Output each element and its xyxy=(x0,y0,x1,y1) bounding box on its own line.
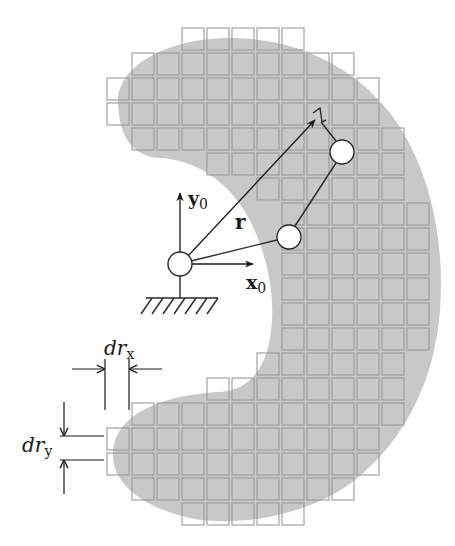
r-label: r xyxy=(235,210,246,234)
y0-label: y0 xyxy=(187,187,208,212)
workspace-region xyxy=(113,38,441,521)
dr-y-dimension xyxy=(60,402,104,494)
ground-icon xyxy=(141,276,218,314)
joint-2 xyxy=(277,225,301,249)
dr-x-label: drx xyxy=(104,336,134,362)
joint-3 xyxy=(330,140,354,164)
base-joint xyxy=(168,252,192,276)
workspace-diagram: y0 r x0 drx dry xyxy=(0,0,455,546)
dr-x-dimension xyxy=(72,359,162,410)
x0-label: x0 xyxy=(246,271,266,296)
dr-y-label: dry xyxy=(22,433,52,459)
